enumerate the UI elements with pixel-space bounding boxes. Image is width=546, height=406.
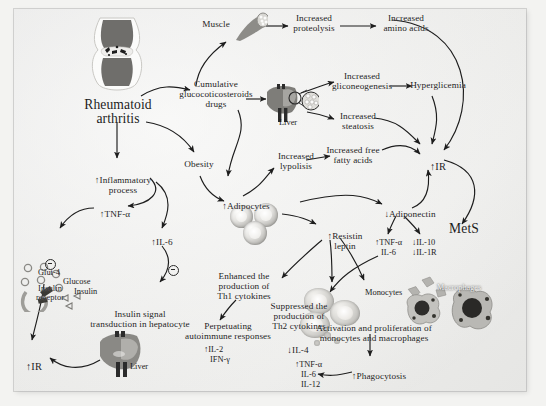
node-mets: MetS xyxy=(440,222,488,236)
ir-left-label: IR xyxy=(31,361,42,372)
node-tnf-alpha-left: ↑TNF-α xyxy=(88,200,142,220)
label-liver-bottom: Liver xyxy=(130,362,148,371)
label-liver-top: Liver xyxy=(279,118,297,127)
muscle-illustration xyxy=(234,12,268,42)
cytokines-th1-products: ↑IL-2 IFN-γ xyxy=(204,345,230,365)
inflammatory-process-label: Inflammatory process xyxy=(99,175,151,195)
node-enhanced-th1: Enhanced the production of Th1 cytokines xyxy=(205,272,283,301)
inhibition-icon-insulin-signal xyxy=(168,265,179,276)
liver-illustration-bottom xyxy=(97,330,159,378)
node-phagocytosis: ↑Phagocytosis xyxy=(338,362,420,382)
node-obesity: Obesity xyxy=(175,160,223,170)
cytokines-adiponectin-up: ↑TNF-α IL-6 xyxy=(375,238,402,258)
cytokine-il6-macro: IL-6 xyxy=(295,370,316,379)
cytokine-il2: IL-2 xyxy=(208,345,223,354)
node-hyperglicemia: Hyperglicemia xyxy=(407,81,469,91)
node-inflammatory-process: ↑Inflammatory process xyxy=(86,166,160,195)
adipocytes-label: Adipocytes xyxy=(227,201,270,211)
cytokines-adiponectin-down: ↓IL-10 ↓IL-1R xyxy=(412,238,437,258)
node-cumulative-drugs: Cumulative glucocoticosteroids drugs xyxy=(176,80,256,109)
adiponectin-label: Adiponectin xyxy=(389,209,436,219)
node-increased-lypolisis: Increased lypolisis xyxy=(268,152,324,172)
node-activation-proliferation: Activation and proliferation of monocyte… xyxy=(304,324,444,344)
node-resistin-leptin: ↑Resistin leptin xyxy=(316,222,374,251)
cytokine-tnf-alpha-macro: TNF-α xyxy=(299,360,322,369)
il6-left-label: IL-6 xyxy=(156,237,173,247)
joint-illustration xyxy=(88,16,146,94)
inhibition-icon-glut4 xyxy=(45,259,56,270)
il4-label: IL-4 xyxy=(292,345,309,355)
node-adiponectin: ↓Adiponectin xyxy=(372,200,448,220)
cytokine-il10: IL-10 xyxy=(416,238,435,247)
tnf-alpha-left-label: TNF-α xyxy=(104,209,130,219)
node-increased-proteolysis: Increased proteolysis xyxy=(283,14,345,34)
cytokine-il12-macro: IL-12 xyxy=(295,380,320,389)
node-adipocytes: ↑Adipocytes xyxy=(211,192,281,212)
node-muscle: Muscle xyxy=(196,20,236,30)
cytokine-tnf-alpha: TNF-α xyxy=(379,238,402,247)
ir-right-label: IR xyxy=(435,161,446,172)
label-insulin-receptor: Insulin receptor xyxy=(26,285,74,303)
label-insulin: Insulin xyxy=(74,287,97,296)
label-monocytes: Monocytes xyxy=(365,288,402,297)
cytokine-il6: IL-6 xyxy=(375,248,396,257)
cytokine-il1r: IL-1R xyxy=(416,248,436,257)
node-increased-amino-acids: Increased amino acids xyxy=(373,14,439,34)
node-il6-left: ↑IL-6 xyxy=(140,228,184,248)
node-increased-free-fatty-acids: Increased free fatty acids xyxy=(320,146,386,166)
label-macrophages: Macrophages xyxy=(437,283,481,292)
phagocytosis-label: Phagocytosis xyxy=(357,371,407,381)
node-increased-steatosis: Increased steatosis xyxy=(330,112,386,132)
cytokines-macrophage-products: ↑TNF-α IL-6 IL-12 xyxy=(295,360,322,390)
figure-canvas: Rheumatoid arthritis Muscle Increased pr… xyxy=(0,0,546,406)
node-ir-right: ↑IR xyxy=(418,150,458,172)
node-ir-left: ↑IR xyxy=(14,350,54,372)
cytokine-ifn-gamma: IFN-γ xyxy=(204,355,230,364)
node-rheumatoid-arthritis: Rheumatoid arthritis xyxy=(70,98,166,127)
node-increased-gliconeogenesis: Increased gliconeogenesis xyxy=(328,72,396,92)
resistin-leptin-label: Resistin leptin xyxy=(332,231,362,251)
